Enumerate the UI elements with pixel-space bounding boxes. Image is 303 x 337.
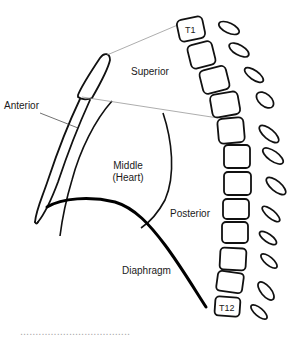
vertebra-t5 [217, 117, 245, 144]
vertebra-label-top: T1 [185, 25, 196, 35]
label-anterior: Anterior [4, 100, 39, 111]
vertebra-t8 [223, 199, 249, 219]
figure-caption-partial: .................................... [20, 325, 130, 337]
label-middle: Middle [112, 160, 144, 171]
label-heart: (Heart) [110, 172, 146, 183]
sternum-body-right [38, 100, 90, 222]
process-9 [258, 229, 279, 247]
vertebra-t2 [186, 40, 216, 69]
process-7 [264, 174, 289, 197]
thoracic-inlet-line [107, 24, 180, 55]
process-2 [227, 40, 251, 60]
vertebra-t11 [216, 270, 245, 293]
label-posterior: Posterior [170, 208, 210, 219]
sternal-angle-line [82, 97, 218, 118]
manubrium [78, 54, 110, 99]
xiphoid-tip [35, 222, 38, 224]
vertebra-t7 [224, 172, 251, 195]
process-11 [255, 279, 277, 302]
process-5 [257, 122, 282, 145]
process-12 [249, 303, 269, 322]
process-3 [242, 65, 265, 85]
vertebra-t4 [209, 91, 241, 119]
vertebra-t6 [224, 145, 250, 168]
process-8 [260, 204, 282, 224]
process-10 [259, 252, 279, 271]
vertebra-label-bottom: T12 [219, 303, 235, 313]
pericardium-anterior [60, 101, 112, 236]
label-diaphragm: Diaphragm [122, 265, 171, 276]
process-4 [253, 89, 276, 111]
pericardium-posterior [141, 113, 172, 228]
vertebral-column [176, 16, 251, 317]
process-6 [260, 145, 285, 167]
vertebra-t3 [198, 65, 230, 95]
vertebra-t9 [222, 222, 248, 243]
label-superior: Superior [131, 66, 169, 77]
vertebra-t10 [219, 247, 246, 270]
process-1 [217, 19, 241, 37]
